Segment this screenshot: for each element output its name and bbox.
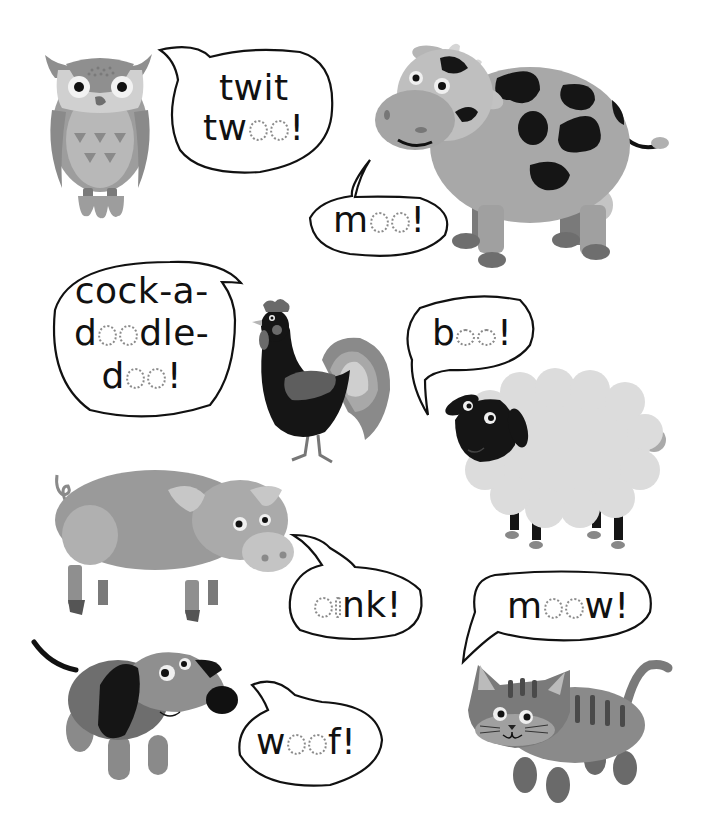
cow-solid: m [333, 199, 369, 240]
trace-letter-o[interactable] [147, 368, 166, 389]
trace-letter-o[interactable] [249, 120, 268, 141]
dog-solid-w: w [256, 721, 286, 762]
trace-letter-i[interactable] [335, 597, 341, 618]
cat-illustration [468, 664, 668, 803]
owl-illustration [45, 54, 152, 218]
owl-sound-text: twit tw! [203, 68, 305, 149]
trace-letter-o[interactable] [126, 368, 145, 389]
trace-letter-o[interactable] [287, 734, 306, 755]
dog-illustration [34, 642, 238, 780]
trace-letter-o[interactable] [314, 597, 333, 618]
owl-solid: tw [203, 107, 248, 148]
trace-letter-o[interactable] [308, 734, 327, 755]
owl-line-2: tw! [203, 108, 305, 148]
rooster-solid-d: d [74, 312, 97, 353]
pig-sound-text: nk! [313, 585, 402, 625]
trace-letter-a[interactable] [477, 329, 496, 346]
trace-letter-a[interactable] [456, 329, 475, 346]
trace-letter-o[interactable] [270, 120, 289, 141]
rooster-sound-text: cock-a- ddle- d! [74, 270, 209, 397]
trace-letter-o[interactable] [370, 212, 389, 233]
cat-exclaim: ! [615, 585, 630, 626]
owl-line-1: twit [203, 68, 305, 108]
worksheet-illustration [0, 0, 706, 828]
rooster-illustration [252, 299, 390, 462]
rooster-line-1: cock-a- [74, 270, 209, 312]
sheep-illustration [442, 368, 666, 549]
dog-exclaim: ! [341, 721, 356, 762]
rooster-line-3: d! [74, 355, 209, 397]
sheep-exclaim: ! [497, 312, 512, 353]
sheep-solid: b [432, 312, 455, 353]
rooster-exclaim: ! [167, 355, 182, 396]
trace-letter-o[interactable] [98, 325, 117, 346]
cat-sound-text: mw! [507, 586, 629, 626]
cow-exclaim: ! [411, 199, 426, 240]
cat-solid-m: m [507, 585, 543, 626]
rooster-solid-dle: dle- [139, 312, 209, 353]
cat-solid-w: w [585, 585, 615, 626]
rooster-solid-d2: d [102, 355, 125, 396]
pig-solid: nk [342, 584, 387, 625]
pig-illustration [55, 470, 294, 622]
rooster-line-2: ddle- [74, 312, 209, 354]
dog-sound-text: wf! [256, 722, 356, 762]
sheep-sound-text: b! [432, 313, 512, 353]
cow-sound-text: m! [333, 200, 426, 240]
pig-exclaim: ! [387, 584, 402, 625]
dog-solid-f: f [328, 721, 341, 762]
trace-letter-o[interactable] [565, 598, 584, 619]
owl-exclaim: ! [290, 107, 305, 148]
trace-letter-e[interactable] [544, 598, 563, 619]
trace-letter-o[interactable] [119, 325, 138, 346]
trace-letter-o[interactable] [391, 212, 410, 233]
